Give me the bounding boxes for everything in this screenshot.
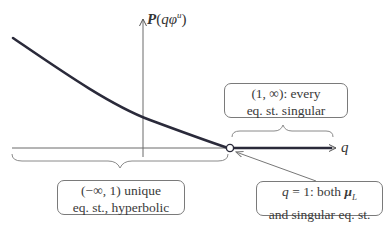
x-axis-label: q bbox=[341, 139, 349, 156]
y-label-close: ) bbox=[181, 11, 186, 27]
y-axis-label: P(qφu) bbox=[147, 10, 186, 28]
box-line-2: eq. st. singular bbox=[225, 102, 347, 119]
box-line-2: and singular eq. st. bbox=[257, 206, 382, 223]
mu-symbol: μ bbox=[344, 184, 352, 199]
annotation-box-hyperbolic-region: (−∞, 1) unique eq. st., hyperbolic bbox=[57, 180, 185, 215]
box-line-1: (1, ∞): every bbox=[225, 85, 347, 102]
eq-text: = 1: both bbox=[289, 184, 345, 199]
critical-point-marker bbox=[226, 144, 233, 151]
q-var: q bbox=[282, 184, 289, 199]
pressure-curve bbox=[13, 38, 228, 148]
pointer-arrow bbox=[236, 152, 316, 181]
box-line-1: (−∞, 1) unique bbox=[58, 182, 184, 199]
y-label-var: qφ bbox=[161, 11, 177, 27]
y-label-prefix: P bbox=[147, 11, 156, 27]
mu-subscript: L bbox=[352, 192, 357, 202]
annotation-box-singular-region: (1, ∞): every eq. st. singular bbox=[224, 83, 348, 118]
annotation-box-critical-point: q = 1: both μL and singular eq. st. bbox=[256, 181, 383, 216]
box-line-1: q = 1: both μL bbox=[257, 183, 382, 206]
box-line-2: eq. st., hyperbolic bbox=[58, 199, 184, 216]
lower-brace bbox=[12, 154, 228, 168]
upper-brace bbox=[232, 125, 333, 137]
